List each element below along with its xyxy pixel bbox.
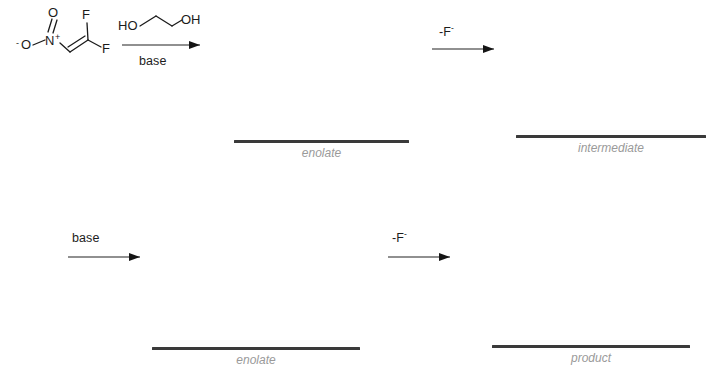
reactant-structure: - O N + O F F bbox=[8, 2, 120, 70]
structure-caption-enolate-2: enolate bbox=[152, 353, 360, 367]
arrow-head bbox=[439, 253, 450, 261]
condition-text: -F bbox=[439, 25, 451, 39]
bond-n-c1 bbox=[60, 43, 70, 52]
fluoride-charge-sup: - bbox=[404, 229, 407, 239]
redacted-structure-product bbox=[492, 345, 690, 348]
structure-caption-product: product bbox=[492, 351, 690, 365]
structure-caption-intermediate: intermediate bbox=[516, 141, 706, 155]
f-bottom-label: F bbox=[102, 41, 110, 56]
n-plus-charge-label: + bbox=[55, 32, 60, 42]
reaction-arrow-step-2 bbox=[432, 42, 494, 56]
reaction-arrow-step-1 bbox=[122, 38, 200, 52]
bond-n-o-double-a bbox=[48, 19, 52, 32]
bond-c2-f-top bbox=[87, 23, 88, 40]
condition-label-step-4: -F- bbox=[392, 231, 407, 245]
condition-label-step-3: base bbox=[72, 231, 100, 245]
bond-o-n bbox=[33, 40, 45, 45]
condition-text: base bbox=[139, 54, 167, 68]
bond-c2-f-bottom bbox=[88, 40, 101, 47]
condition-label-step-1: base bbox=[139, 54, 167, 68]
bond-glycol-2 bbox=[156, 16, 172, 26]
o-double-label: O bbox=[48, 5, 58, 20]
arrow-head bbox=[189, 41, 200, 49]
fluoride-charge-sup: - bbox=[451, 23, 454, 33]
o-minus-charge-label: - bbox=[16, 38, 19, 48]
bond-c1-c2-a bbox=[70, 40, 88, 52]
redacted-structure-enolate-2 bbox=[152, 347, 360, 350]
ethylene-glycol-svg: HO OH bbox=[118, 8, 208, 38]
bond-glycol-1 bbox=[140, 16, 156, 26]
bond-c1-c2-b bbox=[68, 36, 85, 47]
reaction-arrow-step-4 bbox=[388, 250, 450, 264]
reagent-ho-label: HO bbox=[118, 18, 138, 33]
condition-text: base bbox=[72, 231, 100, 245]
reagent-ethylene-glycol-structure: HO OH bbox=[118, 8, 208, 38]
f-top-label: F bbox=[82, 7, 90, 22]
redacted-structure-enolate-1 bbox=[234, 140, 409, 143]
structure-caption-enolate-1: enolate bbox=[234, 146, 409, 160]
arrow-head bbox=[483, 45, 494, 53]
reaction-scheme: - O N + O F F HO bbox=[0, 0, 723, 392]
arrow-head bbox=[129, 253, 140, 261]
reactant-svg: - O N + O F F bbox=[8, 2, 120, 70]
n-plus-label: N bbox=[45, 33, 54, 48]
condition-label-step-2: -F- bbox=[439, 25, 454, 39]
condition-text: -F bbox=[392, 231, 404, 245]
redacted-structure-intermediate bbox=[516, 135, 706, 138]
reagent-oh-label: OH bbox=[181, 12, 201, 27]
o-minus-label: O bbox=[21, 37, 31, 52]
reaction-arrow-step-3 bbox=[68, 250, 140, 264]
